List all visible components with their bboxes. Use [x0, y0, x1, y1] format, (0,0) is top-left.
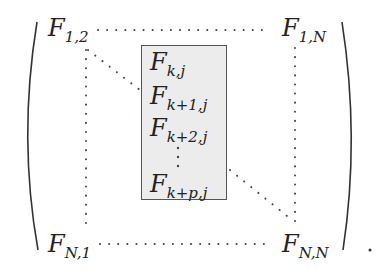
box-entry-3: Fk+p,j — [150, 172, 207, 201]
vertical-dots — [0, 0, 389, 277]
